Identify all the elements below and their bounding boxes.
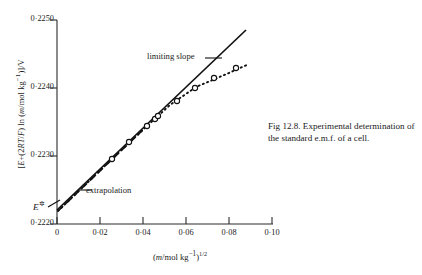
x-tick-0.08: 0·08 xyxy=(209,229,249,237)
y-axis-title: [E+(2RT/F) ln (m/mol kg−1)]/V xyxy=(14,19,26,209)
data-point xyxy=(155,113,160,118)
y-tick-0.2220: 0·2220 xyxy=(8,219,54,229)
e-standard-leader xyxy=(48,200,60,207)
figure-page: 0·2250 0·2240 0·2230 0·2220 0 0·02 0·04 … xyxy=(0,0,422,275)
data-point xyxy=(144,123,149,128)
standard-state-icon: ✲ xyxy=(39,200,45,208)
x-tick-0.10: 0·10 xyxy=(252,229,292,237)
figure-caption: Fig 12.8. Experimental determination of … xyxy=(268,120,418,144)
data-point xyxy=(211,75,216,80)
annotation-limiting-slope: limiting slope xyxy=(147,52,195,61)
annotation-extrapolation: extrapolation xyxy=(86,186,131,195)
data-point xyxy=(233,65,238,70)
data-point xyxy=(126,139,131,144)
data-point-markers xyxy=(109,65,238,161)
x-tick-0.04: 0·04 xyxy=(123,229,163,237)
data-point xyxy=(192,85,197,90)
x-axis-title: (m/mol kg−1)1/2 xyxy=(90,250,270,262)
x-tick-0.02: 0·02 xyxy=(80,229,120,237)
x-tick-0: 0 xyxy=(37,229,77,237)
annotation-e-standard: E✲ xyxy=(33,201,45,212)
data-point xyxy=(109,156,114,161)
x-axis-ticks xyxy=(57,217,272,224)
x-tick-0.06: 0·06 xyxy=(166,229,206,237)
y-axis-ticks xyxy=(50,20,57,224)
data-point xyxy=(174,98,179,103)
chart-figure: 0·2250 0·2240 0·2230 0·2220 0 0·02 0·04 … xyxy=(0,0,280,275)
